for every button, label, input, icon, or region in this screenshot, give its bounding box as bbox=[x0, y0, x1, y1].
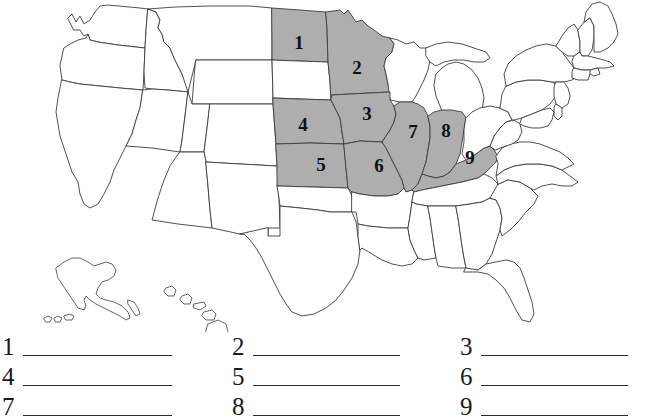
map-number-4: 4 bbox=[298, 114, 308, 135]
inset-alaska-aleutians bbox=[44, 316, 52, 322]
inset-hawaii-kauai bbox=[164, 286, 176, 296]
answer-blank-line[interactable] bbox=[253, 385, 400, 386]
map-number-8: 8 bbox=[441, 120, 451, 141]
answer-item-3[interactable]: 3 bbox=[460, 334, 649, 364]
state-massachusetts bbox=[572, 52, 614, 70]
state-connecticut bbox=[572, 68, 590, 80]
inset-alaska-panhandle bbox=[128, 300, 140, 316]
answer-item-8[interactable]: 8 bbox=[232, 394, 442, 420]
state-new-mexico bbox=[206, 162, 280, 236]
answer-item-9[interactable]: 9 bbox=[460, 394, 649, 420]
answer-blank-line[interactable] bbox=[23, 415, 172, 416]
answer-number-label: 5 bbox=[232, 364, 245, 389]
answer-item-2[interactable]: 2 bbox=[232, 334, 442, 364]
answer-row: 7 8 9 bbox=[0, 394, 649, 420]
inset-alaska bbox=[56, 258, 130, 320]
state-wyoming bbox=[192, 60, 273, 104]
answer-blank-line[interactable] bbox=[253, 415, 400, 416]
answer-row: 4 5 6 bbox=[0, 364, 649, 394]
map-number-3: 3 bbox=[362, 103, 372, 124]
answer-number-label: 7 bbox=[2, 394, 15, 419]
state-new-hampshire bbox=[578, 18, 594, 56]
map-number-1: 1 bbox=[294, 32, 304, 53]
answer-number-label: 3 bbox=[460, 334, 473, 359]
map-number-5: 5 bbox=[316, 154, 326, 175]
answer-number-label: 6 bbox=[460, 364, 473, 389]
inset-hawaii-oahu bbox=[180, 294, 192, 304]
map-number-9: 9 bbox=[465, 147, 475, 168]
answer-blank-line[interactable] bbox=[481, 355, 628, 356]
map-number-6: 6 bbox=[374, 155, 384, 176]
answer-blank-line[interactable] bbox=[481, 415, 628, 416]
state-arizona bbox=[152, 152, 212, 228]
state-minnesota bbox=[326, 10, 394, 100]
map-number-7: 7 bbox=[408, 121, 418, 142]
inset-hawaii-maui bbox=[202, 310, 216, 320]
answer-row: 1 2 3 bbox=[0, 334, 649, 364]
answer-item-5[interactable]: 5 bbox=[232, 364, 442, 394]
answer-number-label: 8 bbox=[232, 394, 245, 419]
map-number-2: 2 bbox=[352, 57, 362, 78]
answer-blank-line[interactable] bbox=[253, 355, 400, 356]
state-rhode-island bbox=[590, 68, 600, 76]
answer-number-label: 1 bbox=[2, 334, 15, 359]
state-south-dakota bbox=[272, 60, 331, 100]
inset-alaska-aleutians-2 bbox=[54, 316, 62, 322]
answer-blank-line[interactable] bbox=[481, 385, 628, 386]
answer-item-1[interactable]: 1 bbox=[2, 334, 212, 364]
answer-number-label: 4 bbox=[2, 364, 15, 389]
answer-item-6[interactable]: 6 bbox=[460, 364, 649, 394]
answer-number-label: 9 bbox=[460, 394, 473, 419]
inset-alaska-aleutians-3 bbox=[64, 314, 74, 320]
answer-item-4[interactable]: 4 bbox=[2, 364, 212, 394]
state-florida bbox=[464, 260, 534, 322]
answer-grid: 1 2 3 4 5 6 7 8 bbox=[0, 331, 649, 412]
inset-hawaii-molokai bbox=[194, 302, 206, 310]
answer-item-7[interactable]: 7 bbox=[2, 394, 212, 420]
answer-blank-line[interactable] bbox=[23, 355, 172, 356]
us-map-figure: 1 2 3 4 5 6 7 8 9 bbox=[0, 0, 649, 332]
state-colorado bbox=[204, 104, 277, 166]
answer-blank-line[interactable] bbox=[23, 385, 172, 386]
answer-number-label: 2 bbox=[232, 334, 245, 359]
us-map-svg: 1 2 3 4 5 6 7 8 9 bbox=[0, 0, 649, 332]
state-kansas bbox=[276, 143, 348, 188]
